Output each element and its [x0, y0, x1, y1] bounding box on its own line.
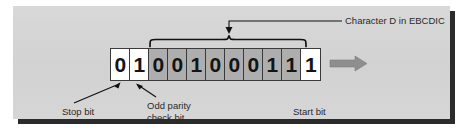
bit-cell: 1 — [130, 49, 149, 80]
label-character-d-ebcdic: Character D in EBCDIC — [345, 15, 445, 27]
label-odd-parity-check-bit: Odd parity check bit — [147, 100, 209, 124]
bit-cell: 1 — [187, 49, 206, 80]
bit-cell: 1 — [263, 49, 282, 80]
bit-cell: 0 — [225, 49, 244, 80]
label-stop-bit: Stop bit — [62, 106, 94, 118]
bit-stream-row: 01001000111 — [110, 48, 321, 81]
bit-cell: 0 — [111, 49, 130, 80]
bit-cell: 0 — [168, 49, 187, 80]
bit-stream-diagram: 01001000111 Character D in EBCDIC Stop b… — [0, 0, 471, 139]
bit-cell: 0 — [206, 49, 225, 80]
bit-cell: 1 — [301, 49, 320, 80]
bit-cell: 0 — [244, 49, 263, 80]
bit-cell: 0 — [149, 49, 168, 80]
label-start-bit: Start bit — [293, 106, 326, 118]
bit-cell: 1 — [282, 49, 301, 80]
